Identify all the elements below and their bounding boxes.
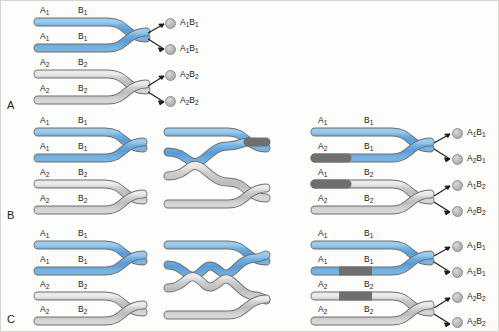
allele-label-c-c3-r3-b: B2 [364,280,373,289]
allele-label-b-c3-r2-a: A2 [318,142,327,151]
gamete-label: A1B1 [467,267,486,276]
allele-label-b-c1-r2-b: B1 [78,142,87,151]
allele-label-a-c1-r4-a: A2 [40,84,49,93]
allele-label-c-c1-r3-b: B2 [78,280,87,289]
gamete-circle [165,18,176,29]
allele-label-b-c3-r2-b: B1 [364,142,373,151]
panel-label-c: C [7,313,15,325]
allele-label-b-c1-r1-b: B1 [78,116,87,125]
allele-label-b-c1-r3-b: B2 [78,168,87,177]
gamete-circle [165,44,176,55]
allele-label-a-c1-r1-a: A1 [40,6,49,15]
allele-label-c-c3-r4-a: A2 [318,305,327,314]
chromosome-diagram-svg [0,0,499,332]
allele-label-c-c1-r2-b: B1 [78,255,87,264]
gamete-label: A1B1 [467,128,486,137]
allele-label-a-c1-r2-a: A1 [40,32,49,41]
panel-a-chromatids [38,22,146,100]
gamete-circle [452,241,463,252]
allele-label-a-c1-r3-a: A2 [40,58,49,67]
allele-label-b-c3-r3-a: A1 [318,168,327,177]
allele-label-c-c3-r3-a: A2 [318,280,327,289]
panel-label-a: A [7,99,15,111]
allele-label-a-c1-r3-b: B2 [78,58,87,67]
allele-label-b-c3-r3-b: B2 [364,168,373,177]
panel-b-arrows [434,134,450,215]
gamete-label: A1B2 [467,180,486,189]
gamete-circle [165,70,176,81]
gamete-circle [452,317,463,328]
allele-label-c-c1-r1-a: A1 [40,229,49,238]
gamete-label: A2B2 [467,292,486,301]
allele-label-c-c1-r4-b: B2 [78,305,87,314]
allele-label-c-c3-r2-b: B1 [364,255,373,264]
allele-label-c-c1-r1-b: B1 [78,229,87,238]
gamete-label: A1B1 [467,241,486,250]
gamete-label: A2B2 [467,317,486,326]
panel-c-arrows [434,247,450,327]
gamete-circle [165,96,176,107]
allele-label-b-c1-r1-a: A1 [40,116,49,125]
allele-label-a-c1-r4-b: B2 [78,84,87,93]
gamete-label: A2B2 [467,206,486,215]
allele-label-b-c3-r1-b: B1 [364,116,373,125]
gamete-label: A2B2 [180,70,199,79]
allele-label-c-c1-r4-a: A2 [40,305,49,314]
gamete-label: A2B2 [180,96,199,105]
gamete-circle [452,206,463,217]
gamete-label: A1B1 [180,44,199,53]
gamete-circle [452,267,463,278]
allele-label-b-c1-r2-a: A1 [40,142,49,151]
allele-label-c-c3-r4-b: B2 [364,305,373,314]
gamete-label: A1B1 [180,18,199,27]
gamete-circle [452,154,463,165]
allele-label-c-c1-r3-a: A2 [40,280,49,289]
panel-label-b: B [7,209,15,221]
allele-label-b-c1-r3-a: A2 [40,168,49,177]
panel-c-col1-chromatids [38,245,143,321]
allele-label-b-c3-r4-a: A2 [318,194,327,203]
allele-label-a-c1-r1-b: B1 [78,6,87,15]
allele-label-b-c3-r4-b: B2 [364,194,373,203]
allele-label-c-c3-r1-a: A1 [318,229,327,238]
allele-label-c-c3-r2-a: A1 [318,255,327,264]
panel-b-col2-chiasma [168,132,266,204]
panel-b-col1-chromatids [38,132,143,210]
gamete-circle [452,292,463,303]
figure-canvas: A B C A1 B1 A1 B1 A2 B2 A2 B2 A1B1 A1B1 … [0,0,499,332]
gamete-circle [452,128,463,139]
allele-label-a-c1-r2-b: B1 [78,32,87,41]
panel-a-arrows [148,24,164,105]
allele-label-b-c3-r1-a: A1 [318,116,327,125]
gamete-label: A2B1 [467,154,486,163]
allele-label-c-c3-r1-b: B1 [364,229,373,238]
gamete-circle [452,180,463,191]
allele-label-b-c1-r4-b: B2 [78,194,87,203]
allele-label-c-c1-r2-a: A1 [40,255,49,264]
allele-label-b-c1-r4-a: A2 [40,194,49,203]
panel-c-col2-double-chiasma [168,245,266,315]
